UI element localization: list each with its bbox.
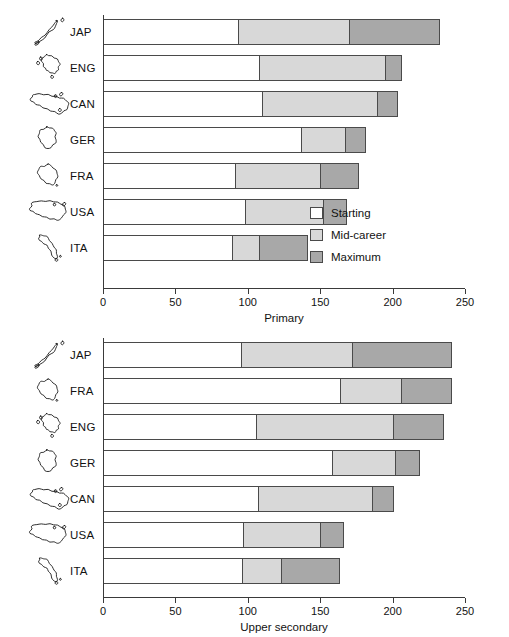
stacked-bar xyxy=(103,378,451,404)
chart-row-eng: ENG xyxy=(0,51,509,85)
bar-segment-maximum xyxy=(281,558,340,584)
bar-segment-maximum xyxy=(259,235,308,261)
chart-row-jap: JAP xyxy=(0,15,509,49)
japan-map-icon xyxy=(26,15,70,49)
y-axis-line xyxy=(103,338,104,597)
bar-segment-mid-career xyxy=(301,127,345,153)
italy-map-icon xyxy=(26,231,70,265)
x-axis-tick-label: 250 xyxy=(456,296,474,308)
country-label-eng: ENG xyxy=(70,51,96,85)
france-map-icon xyxy=(26,159,70,193)
chart-row-can: CAN xyxy=(0,87,509,121)
bar-segment-mid-career xyxy=(332,450,397,476)
x-axis-tick xyxy=(465,289,466,294)
bar-segment-starting xyxy=(103,378,341,404)
x-axis-tick xyxy=(103,598,104,603)
x-axis-tick-label: 100 xyxy=(239,605,257,617)
bar-segment-starting xyxy=(103,91,263,117)
bar-segment-starting xyxy=(103,127,302,153)
chart-row-ger: GER xyxy=(0,123,509,157)
bar-segment-starting xyxy=(103,55,260,81)
country-label-can: CAN xyxy=(70,482,95,516)
x-axis-tick xyxy=(320,598,321,603)
stacked-bar xyxy=(103,414,443,440)
chart-row-ita: ITA xyxy=(0,554,509,588)
x-axis-tick-label: 200 xyxy=(383,605,401,617)
x-axis-tick xyxy=(175,289,176,294)
chart-row-usa: USA xyxy=(0,195,509,229)
bar-segment-maximum xyxy=(377,91,398,117)
country-label-ger: GER xyxy=(70,446,96,480)
x-axis-tick-label: 0 xyxy=(100,605,106,617)
stacked-bar xyxy=(103,19,439,45)
country-label-eng: ENG xyxy=(70,410,96,444)
bar-segment-maximum xyxy=(401,378,451,404)
stacked-bar xyxy=(103,91,397,117)
united-states-map-icon xyxy=(26,518,70,552)
country-label-jap: JAP xyxy=(70,338,92,372)
x-axis-tick xyxy=(175,598,176,603)
country-label-ita: ITA xyxy=(70,554,88,588)
stacked-bar xyxy=(103,235,307,261)
x-axis-tick-label: 50 xyxy=(169,296,181,308)
bar-segment-mid-career xyxy=(238,19,350,45)
x-axis-tick xyxy=(248,289,249,294)
chart-row-can: CAN xyxy=(0,482,509,516)
chart-panel-primary: JAPENGCANGERFRAUSAITA050100150200250Prim… xyxy=(0,0,509,320)
bar-segment-maximum xyxy=(395,450,419,476)
stacked-bar xyxy=(103,450,419,476)
chart-row-ita: ITA xyxy=(0,231,509,265)
japan-map-icon xyxy=(26,338,70,372)
bar-segment-starting xyxy=(103,199,246,225)
x-axis-tick xyxy=(103,289,104,294)
bar-segment-starting xyxy=(103,163,236,189)
stacked-bar xyxy=(103,522,343,548)
bar-segment-maximum xyxy=(320,522,344,548)
legend-swatch-mid-career-icon xyxy=(310,229,323,241)
legend-swatch-maximum-icon xyxy=(310,251,323,263)
y-axis-line xyxy=(103,15,104,288)
chart-row-fra: FRA xyxy=(0,159,509,193)
plot-area-primary: JAPENGCANGERFRAUSAITA050100150200250Prim… xyxy=(0,0,509,320)
country-label-ger: GER xyxy=(70,123,96,157)
x-axis-tick-label: 0 xyxy=(100,296,106,308)
bar-segment-maximum xyxy=(393,414,445,440)
bar-segment-maximum xyxy=(372,486,393,512)
country-label-usa: USA xyxy=(70,518,94,552)
legend-label: Maximum xyxy=(331,249,381,265)
x-axis-tick xyxy=(465,598,466,603)
country-label-fra: FRA xyxy=(70,374,94,408)
plot-area-upper-secondary: JAPFRAENGGERCANUSAITA050100150200250Uppe… xyxy=(0,320,509,637)
bar-segment-mid-career xyxy=(241,342,353,368)
bar-segment-mid-career xyxy=(258,486,373,512)
x-axis-tick-label: 200 xyxy=(383,296,401,308)
bar-segment-starting xyxy=(103,342,242,368)
chart-row-usa: USA xyxy=(0,518,509,552)
x-axis-tick-label: 100 xyxy=(239,296,257,308)
chart-row-jap: JAP xyxy=(0,338,509,372)
x-axis-tick xyxy=(393,289,394,294)
x-axis-tick-label: 150 xyxy=(311,296,329,308)
legend-label: Starting xyxy=(331,205,371,221)
bar-segment-maximum xyxy=(349,19,440,45)
bar-segment-starting xyxy=(103,522,244,548)
country-label-fra: FRA xyxy=(70,159,94,193)
x-axis-line xyxy=(103,597,465,598)
canada-map-icon xyxy=(26,87,70,121)
bar-segment-mid-career xyxy=(262,91,377,117)
country-label-usa: USA xyxy=(70,195,94,229)
bar-segment-starting xyxy=(103,558,243,584)
italy-map-icon xyxy=(26,554,70,588)
x-axis-tick xyxy=(320,289,321,294)
chart-panel-upper-secondary: JAPFRAENGGERCANUSAITA050100150200250Uppe… xyxy=(0,320,509,637)
bar-segment-starting xyxy=(103,235,233,261)
chart-row-ger: GER xyxy=(0,446,509,480)
bar-segment-maximum xyxy=(320,163,359,189)
x-axis-tick-label: 250 xyxy=(456,605,474,617)
stacked-bar xyxy=(103,558,339,584)
x-axis-tick-label: 50 xyxy=(169,605,181,617)
stacked-bar xyxy=(103,163,358,189)
germany-map-icon xyxy=(26,446,70,480)
bar-segment-starting xyxy=(103,486,259,512)
x-axis-line xyxy=(103,288,465,289)
